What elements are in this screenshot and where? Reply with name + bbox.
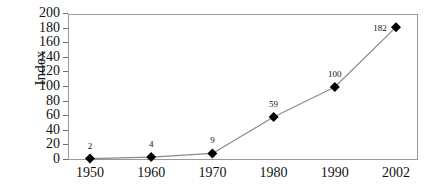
- data-point-marker-1980: [269, 112, 279, 122]
- x-tick-label-1950: 1950: [76, 165, 104, 181]
- data-point-label-1990: 100: [328, 69, 342, 79]
- data-point-label-1950: 2: [88, 141, 93, 151]
- data-point-label-2002: 182: [373, 23, 387, 33]
- x-tick-label-1980: 1980: [260, 165, 288, 181]
- x-tick-label-1960: 1960: [137, 165, 165, 181]
- data-point-label-1980: 59: [269, 99, 278, 109]
- data-point-label-1970: 9: [210, 135, 215, 145]
- x-tick-label-1990: 1990: [321, 165, 349, 181]
- x-tick-label-2002: 2002: [382, 165, 410, 181]
- line-chart: Index 020406080100120140160180200 249591…: [0, 0, 436, 196]
- data-point-marker-1960: [146, 152, 156, 162]
- data-point-label-1960: 4: [149, 139, 154, 149]
- data-point-marker-1970: [207, 148, 217, 158]
- x-tick-label-1970: 1970: [198, 165, 226, 181]
- data-point-marker-1950: [85, 154, 95, 164]
- series-markers: [85, 22, 401, 163]
- series-line: [90, 27, 396, 158]
